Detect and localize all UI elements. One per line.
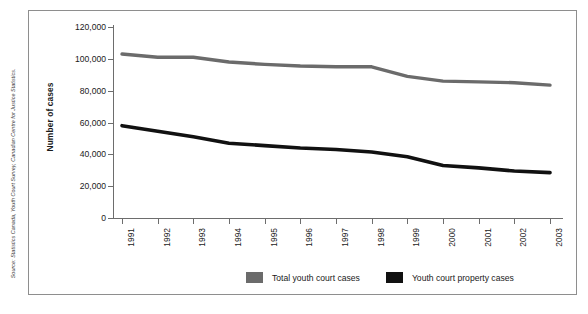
legend-label: Youth court property cases bbox=[412, 273, 514, 283]
legend-swatch-icon bbox=[386, 272, 403, 283]
x-tick-mark bbox=[407, 219, 408, 224]
y-axis-tick-labels: 020,00040,00060,00080,000100,000120,000 bbox=[34, 0, 106, 314]
y-tick-label: 60,000 bbox=[40, 118, 106, 128]
y-tick-mark bbox=[108, 91, 113, 92]
y-tick-mark bbox=[108, 59, 113, 60]
legend-entry[interactable]: Total youth court cases bbox=[246, 272, 360, 283]
chart-figure: Source: Statistics Canada, Youth Court S… bbox=[0, 0, 588, 314]
y-tick-mark bbox=[108, 27, 113, 28]
y-tick-label: 80,000 bbox=[40, 86, 106, 96]
y-tick-mark bbox=[108, 186, 113, 187]
x-tick-mark bbox=[122, 219, 123, 224]
x-tick-mark bbox=[300, 219, 301, 224]
y-tick-label: 100,000 bbox=[40, 54, 106, 64]
x-tick-mark bbox=[372, 219, 373, 224]
x-tick-label: 1991 bbox=[126, 228, 136, 247]
y-tick-label: 40,000 bbox=[40, 149, 106, 159]
x-tick-label: 2003 bbox=[554, 228, 564, 247]
x-tick-label: 1995 bbox=[269, 228, 279, 247]
x-tick-mark bbox=[514, 219, 515, 224]
x-tick-mark bbox=[443, 219, 444, 224]
y-tick-label: 20,000 bbox=[40, 181, 106, 191]
x-tick-label: 1996 bbox=[304, 228, 314, 247]
chart-legend: Total youth court casesYouth court prope… bbox=[246, 272, 514, 283]
x-tick-label: 1994 bbox=[233, 228, 243, 247]
x-tick-label: 2000 bbox=[447, 228, 457, 247]
x-tick-label: 1997 bbox=[340, 228, 350, 247]
x-tick-label: 2001 bbox=[483, 228, 493, 247]
x-tick-label: 1992 bbox=[162, 228, 172, 247]
y-tick-label: 120,000 bbox=[40, 22, 106, 32]
x-tick-mark bbox=[193, 219, 194, 224]
x-tick-label: 1999 bbox=[411, 228, 421, 247]
y-tick-mark bbox=[108, 218, 113, 219]
x-tick-mark bbox=[550, 219, 551, 224]
x-tick-label: 2002 bbox=[518, 228, 528, 247]
x-tick-label: 1993 bbox=[197, 228, 207, 247]
x-axis-line bbox=[113, 218, 563, 219]
legend-swatch-icon bbox=[246, 272, 263, 283]
chart-frame bbox=[28, 10, 577, 295]
legend-label: Total youth court cases bbox=[272, 273, 360, 283]
y-tick-mark bbox=[108, 123, 113, 124]
x-tick-mark bbox=[265, 219, 266, 224]
x-tick-mark bbox=[336, 219, 337, 224]
y-tick-label: 0 bbox=[40, 213, 106, 223]
x-tick-mark bbox=[158, 219, 159, 224]
x-tick-mark bbox=[229, 219, 230, 224]
y-axis-line bbox=[113, 25, 114, 219]
y-tick-mark bbox=[108, 154, 113, 155]
x-tick-mark bbox=[479, 219, 480, 224]
x-tick-label: 1998 bbox=[376, 228, 386, 247]
source-note: Source: Statistics Canada, Youth Court S… bbox=[10, 68, 17, 278]
legend-entry[interactable]: Youth court property cases bbox=[386, 272, 514, 283]
